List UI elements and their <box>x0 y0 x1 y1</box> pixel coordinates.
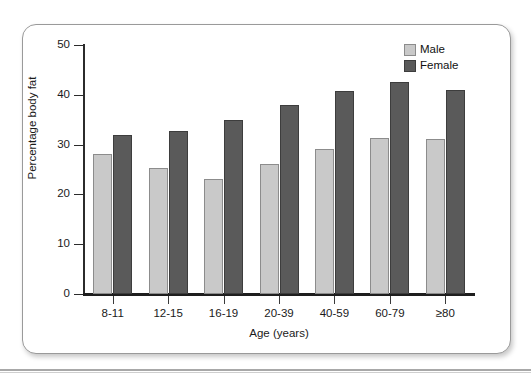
bar-female-≥80 <box>446 90 465 294</box>
y-tick-label-0: 0 <box>24 288 70 300</box>
bar-male-20-39 <box>260 164 279 294</box>
legend-label-female: Female <box>420 60 458 72</box>
bar-male-12-15 <box>149 168 168 294</box>
page-divider-rule-secondary <box>0 372 531 373</box>
x-tick-40-59 <box>334 296 335 304</box>
bar-male-40-59 <box>315 149 334 294</box>
legend-label-male: Male <box>420 44 445 56</box>
bar-female-60-79 <box>390 82 409 294</box>
x-tick-12-15 <box>168 296 169 304</box>
page-divider-rule <box>0 369 531 371</box>
x-tick-≥80 <box>445 296 446 304</box>
legend-item-female: Female <box>404 58 458 73</box>
bar-female-20-39 <box>280 105 299 294</box>
y-tick-label-wrap: 0 <box>20 288 70 300</box>
y-tick-10 <box>74 244 83 245</box>
bar-male-16-19 <box>204 179 223 294</box>
chart-legend: Male Female <box>404 42 458 74</box>
y-tick-40 <box>74 95 83 96</box>
x-tick-8-11 <box>113 296 114 304</box>
bar-male-8-11 <box>93 154 112 294</box>
y-tick-label-10: 10 <box>24 238 70 250</box>
bar-female-40-59 <box>335 91 354 294</box>
x-tick-label-≥80: ≥80 <box>410 308 480 320</box>
legend-item-male: Male <box>404 42 458 57</box>
y-tick-50 <box>74 45 83 46</box>
bar-female-16-19 <box>224 120 243 294</box>
plot-area <box>85 45 473 294</box>
x-tick-16-19 <box>224 296 225 304</box>
x-axis-title: Age (years) <box>85 327 473 339</box>
bar-male-≥80 <box>426 139 445 294</box>
y-tick-30 <box>74 145 83 146</box>
y-tick-label-wrap: 10 <box>20 238 70 250</box>
legend-swatch-male-icon <box>404 44 416 56</box>
legend-swatch-female-icon <box>404 60 416 72</box>
x-tick-20-39 <box>279 296 280 304</box>
x-tick-60-79 <box>390 296 391 304</box>
bar-female-8-11 <box>113 135 132 294</box>
y-tick-0 <box>74 294 83 295</box>
y-axis-title: Percentage body fat <box>26 48 38 208</box>
bar-female-12-15 <box>169 131 188 294</box>
y-tick-20 <box>74 194 83 195</box>
bar-male-60-79 <box>370 138 389 294</box>
